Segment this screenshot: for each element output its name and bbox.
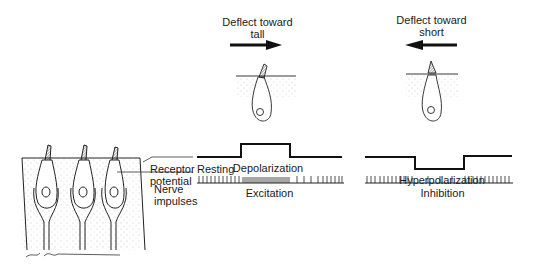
receptor-label-line-1: Receptor <box>150 163 195 175</box>
nerve-label-line-2: impulses <box>154 195 197 207</box>
hyperpolarization-trace <box>365 156 512 169</box>
hair-cell-excitation <box>236 64 296 121</box>
excitation-label: Excitation <box>232 187 307 199</box>
signature-flourish <box>26 253 120 257</box>
arrow-right-icon <box>230 40 282 50</box>
depolarization-trace <box>197 144 342 157</box>
receptor-leader-line <box>143 157 193 162</box>
hair-cell-tissue-illustration <box>22 145 145 257</box>
excitation-direction-line-2: tall <box>215 28 300 40</box>
hyperpolarization-label: Hyperpolarization <box>392 174 492 186</box>
inhibition-direction-line-2: short <box>389 26 474 38</box>
depolarization-label: Depolarization <box>228 162 308 174</box>
nerve-label-line-1: Nerve <box>154 183 197 195</box>
nerve-impulses-label: Nerve impulses <box>154 183 197 207</box>
hair-cell-inhibition <box>406 61 458 121</box>
excitation-direction-label: Deflect toward tall <box>215 16 300 40</box>
excitation-spike-train <box>197 176 344 183</box>
inhibition-label: Inhibition <box>410 187 475 199</box>
excitation-direction-line-1: Deflect toward <box>215 16 300 28</box>
arrow-left-icon <box>405 40 457 50</box>
inhibition-direction-line-1: Deflect toward <box>389 14 474 26</box>
inhibition-direction-label: Deflect toward short <box>389 14 474 38</box>
